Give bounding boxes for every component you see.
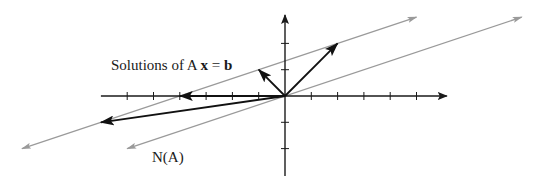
solutions-label: Solutions of A x = b [111, 57, 232, 73]
solution-set-line-start-arrow [22, 17, 417, 149]
solutions-label-eq: = [208, 57, 224, 73]
solution-vector-2 [259, 70, 285, 96]
null-space-label: N(A) [152, 149, 184, 166]
solution-vector-4 [101, 96, 285, 122]
solutions-label-b: b [224, 57, 232, 73]
solutions-label-prefix: Solutions of A [111, 57, 201, 73]
solution-vector-1 [285, 43, 338, 96]
diagram-canvas: Solutions of A x = b N(A) [0, 0, 542, 184]
